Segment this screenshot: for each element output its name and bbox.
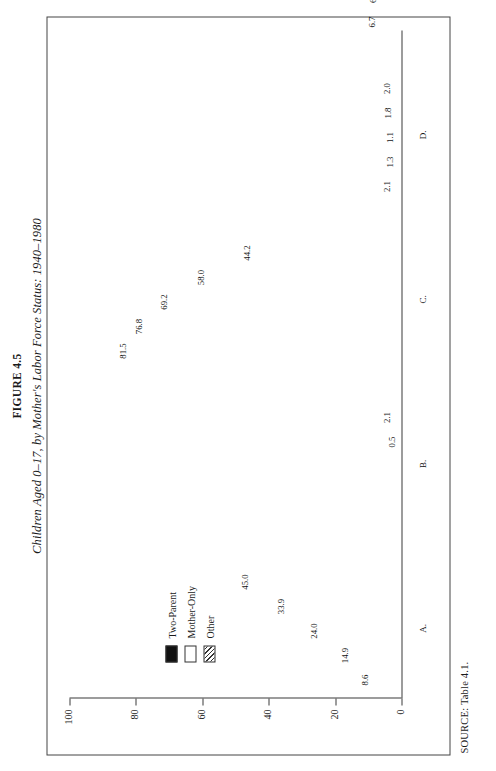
bar-total-label: 8.6 [359, 674, 369, 685]
bar-group-e: 6.719406.219503.919604.019705.11980E. [69, 0, 401, 31]
y-tick-label-40: 40 [261, 709, 272, 719]
y-tick-label-0: 0 [394, 709, 405, 714]
bar-total-label: 6.7 [366, 16, 376, 27]
bar-total-label: 45.0 [239, 574, 249, 589]
group-label-b: B. [417, 459, 427, 467]
group-label-d: D. [417, 130, 427, 139]
y-tick-60: 60 [202, 698, 203, 705]
bar-total-label: 0.5 [386, 436, 396, 447]
bar-groups: 8.6194014.9195024.0196033.9197045.01980A… [69, 30, 401, 697]
bar-total-label: 2.1 [381, 412, 391, 423]
y-tick-label-100: 100 [62, 709, 73, 724]
bar-total-label: 2.1 [381, 181, 391, 192]
y-tick-label-60: 60 [195, 709, 206, 719]
bar-total-label: 76.8 [133, 318, 143, 333]
bar-total-label: 1.3 [384, 156, 394, 167]
bar-total-label: 1.8 [382, 107, 392, 118]
bar-group-a: 8.6194014.9195024.0196033.9197045.01980A… [69, 567, 401, 690]
bar-group-c: 81.5194076.8195069.2196058.0197044.21980… [69, 238, 401, 361]
bar-total-label: 81.5 [117, 343, 127, 358]
figure-source: SOURCE: Table 4.1. [458, 661, 469, 753]
y-tick-80: 80 [135, 698, 136, 705]
y-tick-0: 0 [401, 698, 402, 705]
figure-number: FIGURE 4.5 [10, 0, 22, 771]
plot-frame: 020406080100 Two-Parent Mother-Only Othe… [46, 16, 450, 755]
bar-total-label: 69.2 [158, 294, 168, 309]
bar-total-label: 44.2 [241, 245, 251, 260]
y-tick-label-20: 20 [328, 709, 339, 719]
bar-total-label: 33.9 [275, 598, 285, 613]
group-label-c: C. [417, 295, 427, 303]
bar-total-label: 2.0 [381, 83, 391, 94]
y-tick-20: 20 [335, 698, 336, 705]
group-label-a: A. [417, 623, 427, 632]
bar-total-label: 58.0 [195, 269, 205, 284]
figure-title: Children Aged 0–17, by Mother's Labor Fo… [29, 0, 44, 771]
y-tick-label-80: 80 [128, 709, 139, 719]
bar-total-label: 14.9 [339, 647, 349, 662]
bar-total-label: 1.1 [384, 132, 394, 143]
bar-group-d: 2.119401.319501.119601.819702.01980D. [69, 73, 401, 196]
bar-total-label: 6.2 [367, 0, 377, 3]
bar-group-b: 1940195019600.519702.11980B. [69, 402, 401, 525]
plot-area: 020406080100 Two-Parent Mother-Only Othe… [47, 17, 449, 754]
y-tick-100: 100 [69, 698, 70, 705]
y-tick-40: 40 [268, 698, 269, 705]
figure-page: FIGURE 4.5 Children Aged 0–17, by Mother… [0, 0, 496, 771]
bar-total-label: 24.0 [308, 623, 318, 638]
rotated-figure-canvas: FIGURE 4.5 Children Aged 0–17, by Mother… [0, 0, 496, 771]
